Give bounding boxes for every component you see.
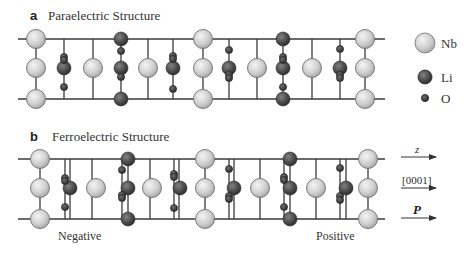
oxygen-atom-icon <box>117 47 124 54</box>
panel-a-atoms <box>27 30 375 109</box>
oxygen-atom-icon <box>118 194 125 201</box>
panel-b: b Ferroelectric Structure Negative Posit… <box>18 129 385 243</box>
lithium-atom-icon <box>276 32 290 46</box>
niobium-atom-icon <box>27 90 46 109</box>
niobium-atom-icon <box>307 179 326 198</box>
lithium-atom-icon <box>114 61 128 75</box>
niobium-atom-icon <box>196 150 215 169</box>
niobium-atom-icon <box>31 210 50 229</box>
lithium-atom-icon <box>114 32 128 46</box>
oxygen-atom-icon <box>336 196 343 203</box>
legend-niobium-atom-icon <box>415 33 435 53</box>
oxygen-atom-icon <box>117 73 124 80</box>
niobium-atom-icon <box>359 150 378 169</box>
niobium-atom-icon <box>143 179 162 198</box>
niobium-atom-icon <box>84 59 103 78</box>
oxygen-atom-icon <box>279 56 286 63</box>
oxygen-atom-icon <box>60 83 67 90</box>
lithium-atom-icon <box>283 212 297 226</box>
niobium-atom-icon <box>87 179 106 198</box>
oxygen-atom-icon <box>170 173 177 180</box>
niobium-atom-icon <box>196 179 215 198</box>
oxygen-atom-icon <box>336 45 343 52</box>
legend-label-nb: Nb <box>441 36 457 51</box>
legend-oxygen-atom-icon <box>421 94 428 101</box>
lithium-atom-icon <box>121 152 135 166</box>
lithium-atom-icon <box>283 152 297 166</box>
panel-b-title: Ferroelectric Structure <box>52 129 170 144</box>
direction-arrows: z[0001]P <box>401 143 436 218</box>
arrow-label: z <box>414 143 420 155</box>
element-legend: NbLiO <box>415 33 457 106</box>
oxygen-atom-icon <box>169 85 176 92</box>
lithium-atom-icon <box>114 92 128 106</box>
niobium-atom-icon <box>139 59 158 78</box>
legend-lithium-atom-icon <box>418 70 432 84</box>
arrow-label: P <box>413 202 422 217</box>
legend-label-o: O <box>441 91 450 106</box>
oxygen-atom-icon <box>118 166 125 173</box>
niobium-atom-icon <box>194 59 213 78</box>
oxygen-atom-icon <box>169 55 176 62</box>
negative-label: Negative <box>58 229 101 243</box>
niobium-atom-icon <box>196 210 215 229</box>
panel-b-letter: b <box>30 129 38 144</box>
panel-a-letter: a <box>30 8 38 23</box>
niobium-atom-icon <box>194 30 213 49</box>
oxygen-atom-icon <box>336 164 343 171</box>
niobium-atom-icon <box>359 179 378 198</box>
lithium-atom-icon <box>166 61 180 75</box>
niobium-atom-icon <box>27 59 46 78</box>
oxygen-atom-icon <box>280 176 287 183</box>
niobium-atom-icon <box>27 30 46 49</box>
oxygen-atom-icon <box>280 203 287 210</box>
niobium-atom-icon <box>359 210 378 229</box>
niobium-atom-icon <box>31 179 50 198</box>
niobium-atom-icon <box>356 30 375 49</box>
arrow-label: [0001] <box>402 174 431 186</box>
niobium-atom-icon <box>356 59 375 78</box>
panel-a: a Paraelectric Structure <box>18 8 385 109</box>
legend-label-li: Li <box>441 70 453 85</box>
niobium-atom-icon <box>248 59 267 78</box>
oxygen-atom-icon <box>225 165 232 172</box>
positive-label: Positive <box>316 229 355 243</box>
niobium-atom-icon <box>194 90 213 109</box>
oxygen-atom-icon <box>336 74 343 81</box>
oxygen-atom-icon <box>225 195 232 202</box>
oxygen-atom-icon <box>225 74 232 81</box>
oxygen-atom-icon <box>170 204 177 211</box>
niobium-atom-icon <box>303 59 322 78</box>
lithium-atom-icon <box>173 181 187 195</box>
oxygen-atom-icon <box>60 56 67 63</box>
niobium-atom-icon <box>31 150 50 169</box>
lithium-atom-icon <box>121 212 135 226</box>
oxygen-atom-icon <box>61 203 68 210</box>
niobium-atom-icon <box>251 179 270 198</box>
lithium-niobate-structure-figure: a Paraelectric Structure b Ferroelectric… <box>0 0 470 254</box>
lithium-atom-icon <box>276 92 290 106</box>
panel-a-title: Paraelectric Structure <box>48 8 160 23</box>
oxygen-atom-icon <box>279 83 286 90</box>
oxygen-atom-icon <box>61 177 68 184</box>
niobium-atom-icon <box>356 90 375 109</box>
panel-b-atoms <box>31 150 378 229</box>
oxygen-atom-icon <box>225 46 232 53</box>
